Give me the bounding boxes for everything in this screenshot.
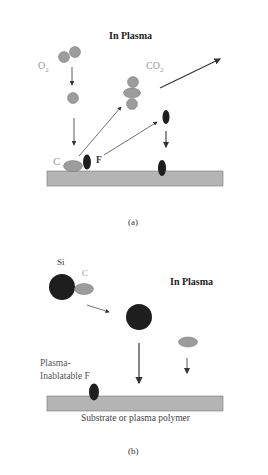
substrate-label: Substrate or plasma polymer (81, 413, 190, 423)
inablatable-f-label: Plasma- Inablatable F (40, 357, 90, 383)
panel-b-title: In Plasma (170, 276, 213, 287)
caption-b: (b) (128, 446, 139, 456)
c-atom-b (75, 284, 94, 295)
f-atom-released (163, 110, 170, 124)
f-atom-bonded (83, 155, 91, 170)
c-label-b: C (82, 268, 88, 278)
o2-subscript: 2 (45, 66, 49, 74)
si-atom-free (126, 304, 152, 330)
o-atom (68, 93, 79, 104)
arrow-f-release (104, 122, 157, 155)
c-atom-surface (64, 161, 83, 172)
co2-c (124, 88, 141, 98)
inablatable-f-line2: Inablatable F (40, 370, 90, 383)
f-label: F (96, 155, 102, 165)
inablatable-f-line1: Plasma- (40, 357, 90, 370)
panel-a-title: In Plasma (109, 30, 152, 41)
si-label: Si (57, 257, 65, 267)
o2-atom-1 (59, 52, 70, 63)
c-atom-free (179, 337, 198, 347)
caption-a: (a) (128, 217, 138, 227)
f-atom-deposited (158, 160, 166, 176)
o2-atom-2 (70, 47, 81, 58)
co2-o-top (128, 77, 139, 88)
panel-a (47, 47, 223, 187)
panel-b (47, 274, 223, 411)
co2-o-bottom (127, 99, 138, 110)
co2-text: CO (146, 60, 160, 71)
o2-label: O2 (38, 60, 49, 74)
arrow-co2-escape (160, 59, 220, 88)
co2-subscript: 2 (160, 66, 164, 74)
si-atom (49, 274, 75, 300)
co2-label: CO2 (146, 60, 163, 74)
substrate-a (47, 171, 223, 186)
c-label: C (53, 155, 60, 167)
arrow-si-path (87, 305, 109, 312)
f-atom-inablatable (89, 384, 99, 401)
substrate-b (47, 396, 223, 411)
